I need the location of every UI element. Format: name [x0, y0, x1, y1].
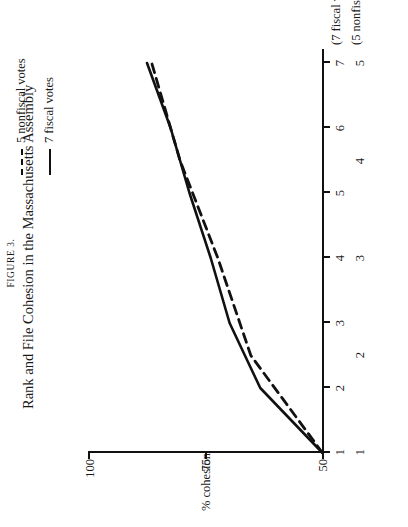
- x-tick-label-nonfiscal: 3: [354, 255, 367, 261]
- x-tick-mark: [324, 191, 330, 193]
- legend-label-fiscal: 7 fiscal votes: [42, 77, 57, 143]
- x-axis-name-fiscal: (7 fiscal votes): [329, 0, 344, 45]
- y-tick-label: 50: [317, 459, 330, 472]
- y-tick-label: 100: [84, 459, 97, 478]
- x-tick-mark: [324, 386, 330, 388]
- x-tick-mark: [324, 126, 330, 128]
- x-tick-label-fiscal: 2: [334, 385, 347, 391]
- solid-line-icon: [49, 149, 51, 175]
- chart-curves: [88, 49, 324, 453]
- legend-item-nonfiscal: 5 nonfiscal votes: [14, 58, 29, 175]
- chart-legend: 5 nonfiscal votes 7 fiscal votes: [14, 58, 70, 175]
- x-tick-label-nonfiscal: 1: [354, 449, 367, 455]
- x-tick-label-fiscal: 6: [334, 125, 347, 131]
- x-tick-label-nonfiscal: 4: [354, 158, 367, 164]
- legend-item-fiscal: 7 fiscal votes: [42, 58, 57, 175]
- x-tick-label-fiscal: 1: [334, 449, 347, 455]
- x-tick-mark: [324, 61, 330, 63]
- figure-page: FIGURE 3. Rank and File Cohesion in the …: [0, 0, 408, 527]
- y-tick-label: 75: [200, 459, 213, 472]
- x-tick-mark: [324, 256, 330, 258]
- x-axis-name-nonfiscal: (5 nonfiscal votes): [349, 0, 364, 45]
- legend-label-nonfiscal: 5 nonfiscal votes: [14, 58, 29, 143]
- x-tick-label-nonfiscal: 2: [354, 352, 367, 358]
- x-tick-label-fiscal: 7: [334, 60, 347, 66]
- x-tick-label-fiscal: 5: [334, 190, 347, 196]
- x-tick-mark: [324, 451, 330, 453]
- x-tick-mark: [324, 321, 330, 323]
- series-line-nonfiscal: [152, 63, 323, 453]
- x-tick-label-nonfiscal: 5: [354, 60, 367, 66]
- rotated-figure-canvas: FIGURE 3. Rank and File Cohesion in the …: [0, 0, 408, 527]
- plot-area: % cohesion 50 75 100 1 2 3 4 5 6 7 1 2: [88, 49, 324, 453]
- x-tick-label-fiscal: 4: [334, 255, 347, 261]
- dashed-line-icon: [21, 149, 23, 175]
- series-line-fiscal: [147, 63, 323, 453]
- x-tick-label-fiscal: 3: [334, 320, 347, 326]
